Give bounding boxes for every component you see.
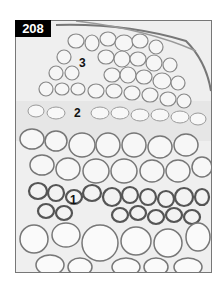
figure-number-badge: 208 [15, 20, 51, 37]
region-label-3: 3 [79, 56, 86, 70]
region-label-1: 1 [70, 193, 77, 207]
micrograph-frame [15, 20, 212, 273]
tissue-micrograph [16, 21, 211, 272]
region-label-2: 2 [74, 106, 81, 120]
